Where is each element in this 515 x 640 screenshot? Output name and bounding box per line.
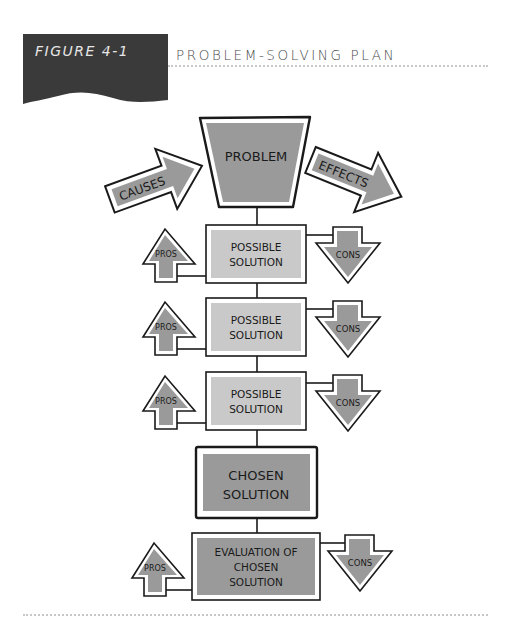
evaluation-line3: SOLUTION [229,576,283,588]
possible-solution-2: POSSIBLE SOLUTION [206,298,306,356]
pros-arrow-3: PROS [143,376,195,429]
effects-arrow: EFFECTS [299,130,414,226]
possible-solution-3: POSSIBLE SOLUTION [206,372,306,430]
problem-label: PROBLEM [225,149,288,164]
solution-1-line2: SOLUTION [229,256,283,268]
solution-3-line2: SOLUTION [229,403,283,415]
pros-label-3: PROS [155,397,177,406]
evaluation-box: EVALUATION OF CHOSEN SOLUTION [192,533,320,600]
solution-3-line1: POSSIBLE [231,388,282,400]
problem-solving-diagram: CAUSES EFFECTS PROBLEM POSSIBLE SOLUTION… [0,0,515,640]
pros-arrow-4: PROS [132,543,184,596]
solution-1-line1: POSSIBLE [231,241,282,253]
pros-arrow-1: PROS [143,229,195,282]
pros-label-2: PROS [155,323,177,332]
problem-box: PROBLEM [200,117,310,207]
cons-label-4: CONS [348,558,372,568]
chosen-solution-box: CHOSEN SOLUTION [196,447,317,518]
causes-arrow: CAUSES [99,136,213,230]
pros-label-1: PROS [155,250,177,259]
cons-label-2: CONS [336,324,360,334]
chosen-line2: SOLUTION [223,487,289,502]
solution-2-line2: SOLUTION [229,329,283,341]
pros-arrow-2: PROS [143,302,195,355]
evaluation-line2: CHOSEN [234,561,279,573]
solution-2-line1: POSSIBLE [231,314,282,326]
evaluation-line1: EVALUATION OF [215,546,298,558]
cons-label-1: CONS [336,250,360,260]
chosen-line1: CHOSEN [228,468,283,483]
pros-label-4: PROS [144,564,166,573]
possible-solution-1: POSSIBLE SOLUTION [206,225,306,283]
cons-label-3: CONS [336,398,360,408]
